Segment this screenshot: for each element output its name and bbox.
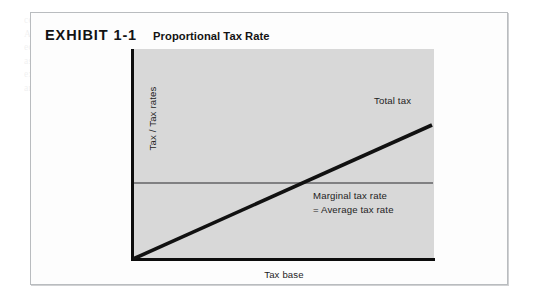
- y-axis-label: Tax / Tax rates: [147, 64, 158, 174]
- chart-plot: Tax / Tax rates Tax base Total tax Margi…: [31, 13, 509, 286]
- average-tax-rate-text: = Average tax rate: [313, 203, 394, 217]
- total-tax-label: Total tax: [374, 95, 411, 106]
- exhibit-frame: EXHIBIT 1-1 Proportional Tax Rate Tax / …: [30, 12, 508, 285]
- x-axis-label: Tax base: [134, 269, 434, 280]
- marginal-average-tax-rate-label: Marginal tax rate = Average tax rate: [313, 189, 394, 216]
- marginal-tax-rate-text: Marginal tax rate: [313, 189, 394, 203]
- total-tax-line: [131, 49, 435, 261]
